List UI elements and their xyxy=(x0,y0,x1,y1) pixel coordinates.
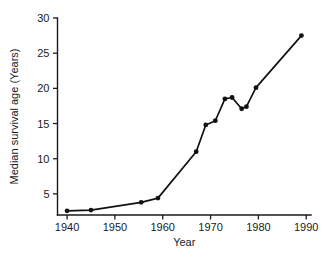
data-point xyxy=(156,196,161,201)
data-series-markers xyxy=(65,33,304,213)
data-point xyxy=(65,208,70,213)
x-tick-label: 1970 xyxy=(198,221,222,233)
data-point xyxy=(244,104,249,109)
line-chart: 51015202530 194019501960197019801990 Yea… xyxy=(0,0,325,260)
x-axis-tick-labels: 194019501960197019801990 xyxy=(55,221,319,233)
y-axis-tick-labels: 51015202530 xyxy=(37,12,49,200)
x-tick-label: 1950 xyxy=(103,221,127,233)
y-tick-label: 30 xyxy=(37,12,49,24)
chart-figure: 51015202530 194019501960197019801990 Yea… xyxy=(0,0,325,260)
y-tick-label: 5 xyxy=(43,188,49,200)
data-point xyxy=(213,118,218,123)
y-tick-label: 25 xyxy=(37,47,49,59)
data-point xyxy=(223,97,228,102)
y-axis-title: Median survival age (Years) xyxy=(8,49,20,185)
data-point xyxy=(203,123,208,128)
data-point xyxy=(239,106,244,111)
x-tick-label: 1990 xyxy=(294,221,318,233)
x-tick-label: 1960 xyxy=(150,221,174,233)
data-point xyxy=(89,208,94,213)
x-tick-label: 1980 xyxy=(246,221,270,233)
data-point xyxy=(254,85,259,90)
data-point xyxy=(230,95,235,100)
x-tick-label: 1940 xyxy=(55,221,79,233)
y-tick-label: 10 xyxy=(37,153,49,165)
y-tick-label: 20 xyxy=(37,82,49,94)
data-point xyxy=(194,149,199,154)
data-point xyxy=(299,33,304,38)
y-tick-label: 15 xyxy=(37,118,49,130)
x-axis-title: Year xyxy=(173,236,196,248)
axis-tickmarks xyxy=(53,18,306,220)
data-series-line xyxy=(67,36,301,211)
data-point xyxy=(139,200,144,205)
